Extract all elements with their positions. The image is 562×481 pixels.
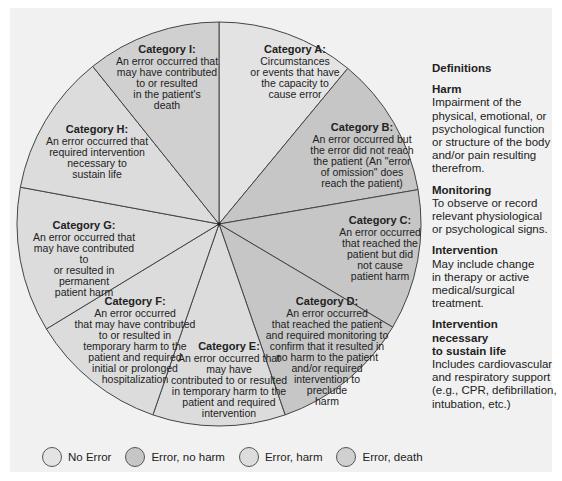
circle-swatch-icon [125, 447, 145, 467]
legend-label: Error, harm [265, 451, 323, 463]
definition-term: Intervention [432, 244, 557, 257]
category-description: An error occurred that may have contribu… [75, 307, 196, 385]
category-title: Category A: [240, 44, 350, 55]
definitions-heading: Definitions [432, 62, 557, 75]
definition-text: Includes cardiovascular and respiratory … [432, 358, 557, 411]
definition-intervention: Intervention May include change in thera… [432, 244, 557, 310]
legend-label: Error, death [362, 451, 422, 463]
definition-intervention-sustain-life: Intervention necessary to sustain life I… [432, 318, 557, 410]
legend-item-harm: Error, harm [239, 447, 323, 467]
category-title: Category G: [28, 220, 140, 231]
legend: No Error Error, no harm Error, harm Erro… [42, 447, 437, 467]
definition-term: Monitoring [432, 184, 557, 197]
category-title: Category H: [42, 124, 152, 135]
category-title: Category C: [330, 215, 430, 226]
segment-label-c: Category C:An error occurred that reache… [330, 215, 430, 282]
pie-center-dot [217, 222, 221, 226]
definition-term: Harm [432, 83, 557, 96]
legend-label: Error, no harm [151, 451, 225, 463]
category-description: Circumstances or events that have the ca… [250, 55, 339, 100]
segment-label-h: Category H:An error occurred that requir… [42, 124, 152, 180]
category-description: An error occurred that required interven… [46, 135, 148, 180]
segment-label-g: Category G:An error occurred that may ha… [28, 220, 140, 298]
category-title: Category D: [256, 296, 398, 307]
segment-label-f: Category F:An error occurred that may ha… [70, 296, 200, 385]
category-title: Category B: [302, 122, 422, 133]
definition-text: May include change in therapy or active … [432, 258, 557, 311]
definition-text: To observe or record relevant physiologi… [432, 197, 557, 237]
legend-item-no-harm: Error, no harm [125, 447, 225, 467]
circle-swatch-icon [42, 447, 62, 467]
circle-swatch-icon [239, 447, 259, 467]
legend-item-no-error: No Error [42, 447, 111, 467]
segment-label-i: Category I:An error occurred that may ha… [112, 44, 222, 111]
definition-monitoring: Monitoring To observe or record relevant… [432, 184, 557, 237]
category-description: An error occurred but the error did not … [310, 133, 413, 189]
category-description: An error occurred that may have contribu… [33, 231, 135, 298]
definition-text: Impairment of the physical, emotional, o… [432, 96, 557, 175]
segment-label-b: Category B:An error occurred but the err… [302, 122, 422, 189]
definition-harm: Harm Impairment of the physical, emotion… [432, 83, 557, 175]
category-description: An error occurred that may have contribu… [116, 55, 218, 111]
legend-item-death: Error, death [336, 447, 422, 467]
definition-term: Intervention necessary to sustain life [432, 318, 557, 358]
definitions-panel: Definitions Harm Impairment of the physi… [432, 62, 557, 419]
circle-swatch-icon [336, 447, 356, 467]
category-title: Category I: [112, 44, 222, 55]
legend-label: No Error [68, 451, 111, 463]
category-description: An error occurred that reached the patie… [339, 226, 421, 282]
segment-label-a: Category A:Circumstances or events that … [240, 44, 350, 100]
